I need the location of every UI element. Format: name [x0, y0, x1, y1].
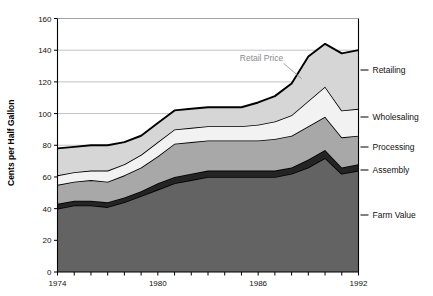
annotation-retail-price: Retail Price [240, 53, 284, 63]
y-axis-title: Cents per Half Gallon [6, 100, 16, 186]
series-label-farm-value: Farm Value [373, 210, 417, 220]
stacked-area-chart: 020406080100120140160 1974198019861992 C… [0, 0, 433, 296]
y-tick-label-140: 140 [38, 46, 52, 55]
y-tick-label-80: 80 [43, 141, 52, 150]
x-tick-label-1992: 1992 [350, 279, 368, 288]
y-tick-label-100: 100 [38, 110, 52, 119]
series-label-retailing: Retailing [373, 65, 406, 75]
chart-container: 020406080100120140160 1974198019861992 C… [0, 0, 433, 296]
y-tick-label-120: 120 [38, 78, 52, 87]
series-label-assembly: Assembly [373, 165, 411, 175]
y-tick-label-60: 60 [43, 173, 52, 182]
x-tick-label-1986: 1986 [249, 279, 267, 288]
x-tick-label-1974: 1974 [49, 279, 67, 288]
y-tick-label-20: 20 [43, 236, 52, 245]
y-tick-label-160: 160 [38, 15, 52, 24]
series-label-processing: Processing [373, 142, 415, 152]
y-tick-label-0: 0 [47, 268, 52, 277]
y-tick-label-40: 40 [43, 205, 52, 214]
series-label-wholesaling: Wholesaling [373, 112, 420, 122]
x-tick-label-1980: 1980 [149, 279, 167, 288]
